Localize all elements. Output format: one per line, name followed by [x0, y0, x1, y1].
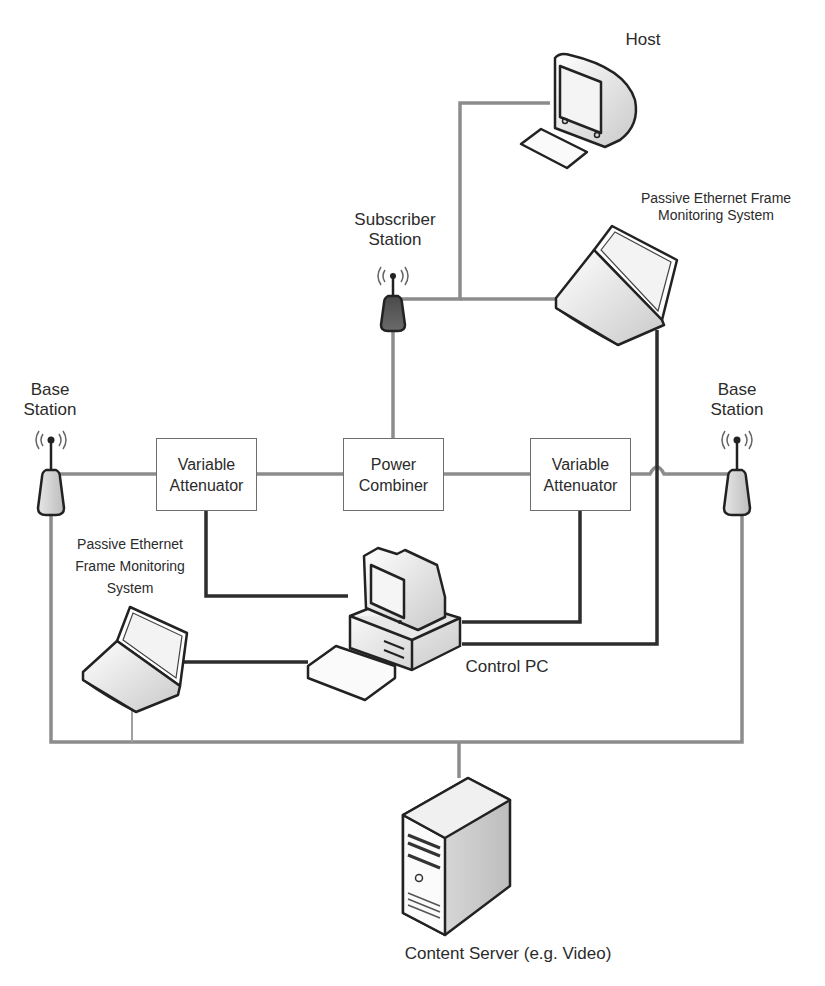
- control-pc-label: Control PC: [452, 657, 562, 677]
- base-station-right-label-line2: Station: [702, 400, 772, 420]
- variable-attenuator-left[interactable]: Variable Attenuator: [156, 438, 257, 511]
- laptop-pefms-top-icon[interactable]: [556, 226, 677, 345]
- base-station-right-label: Base Station: [702, 380, 772, 420]
- pefms-left-label-line1: Passive Ethernet: [55, 533, 205, 555]
- host-computer-icon[interactable]: [521, 54, 636, 168]
- attenuator-right-label-line1: Variable: [544, 454, 618, 475]
- control-link-attenuator-right: [462, 510, 580, 622]
- attenuator-left-label-line2: Attenuator: [170, 475, 244, 496]
- power-combiner[interactable]: Power Combiner: [343, 438, 444, 511]
- attenuator-left-label-line1: Variable: [170, 454, 244, 475]
- control-link-attenuator-left: [206, 510, 348, 596]
- link-attenuator-right-to-bs-right: [631, 467, 730, 474]
- power-combiner-label-line2: Combiner: [359, 475, 428, 496]
- control-pc-icon[interactable]: [308, 548, 460, 700]
- base-station-left-label: Base Station: [15, 380, 85, 420]
- power-combiner-label-line1: Power: [359, 454, 428, 475]
- pefms-left-label: Passive Ethernet Frame Monitoring System: [55, 533, 205, 599]
- base-station-right-label-line1: Base: [702, 380, 772, 400]
- subscriber-station-label: Subscriber Station: [335, 210, 455, 250]
- laptop-pefms-left-icon[interactable]: [83, 607, 187, 712]
- base-station-left-label-line1: Base: [15, 380, 85, 400]
- content-server-label: Content Server (e.g. Video): [383, 944, 633, 964]
- subscriber-station-label-line2: Station: [335, 230, 455, 250]
- pefms-top-label-line1: Passive Ethernet Frame: [606, 190, 825, 207]
- pefms-left-label-line3: System: [55, 577, 205, 599]
- attenuator-right-label-line2: Attenuator: [544, 475, 618, 496]
- content-server-icon[interactable]: [403, 778, 510, 935]
- base-station-left-label-line2: Station: [15, 400, 85, 420]
- pefms-top-label: Passive Ethernet Frame Monitoring System: [606, 190, 825, 224]
- pefms-left-label-line2: Frame Monitoring: [55, 555, 205, 577]
- link-subscriber-to-host: [399, 103, 550, 299]
- host-label: Host: [618, 30, 668, 50]
- subscriber-station-label-line1: Subscriber: [335, 210, 455, 230]
- variable-attenuator-right[interactable]: Variable Attenuator: [530, 438, 631, 511]
- pefms-top-label-line2: Monitoring System: [606, 207, 825, 224]
